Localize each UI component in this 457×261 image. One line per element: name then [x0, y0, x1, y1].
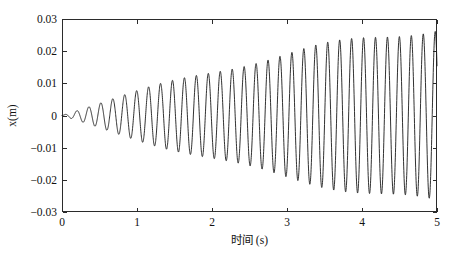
x-tick-label: 4 [359, 216, 365, 228]
y-tick-label: 0 [51, 110, 57, 122]
y-tick-labels: −0.03−0.02−0.0100.010.020.03 [30, 13, 57, 218]
y-tick-label: 0.01 [37, 77, 57, 89]
x-tick-labels: 012345 [59, 216, 440, 228]
x-tick-label: 3 [284, 216, 290, 228]
y-tick-label: 0.03 [37, 13, 57, 25]
y-axis-title: x(m) [6, 104, 19, 127]
x-tick-label: 5 [434, 216, 440, 228]
figure-container: −0.03−0.02−0.0100.010.020.03 012345 时间 (… [0, 0, 457, 261]
y-tick-label: −0.02 [30, 174, 57, 186]
chart-svg: −0.03−0.02−0.0100.010.020.03 012345 时间 (… [0, 0, 457, 261]
y-tick-label: −0.03 [30, 206, 57, 218]
x-tick-label: 1 [134, 216, 140, 228]
plot-area: −0.03−0.02−0.0100.010.020.03 012345 [30, 13, 440, 228]
y-tick-label: −0.01 [30, 142, 57, 154]
x-tick-label: 0 [59, 216, 65, 228]
x-tick-label: 2 [209, 216, 215, 228]
y-tick-label: 0.02 [37, 45, 57, 57]
x-axis-title: 时间 (s) [231, 234, 268, 247]
